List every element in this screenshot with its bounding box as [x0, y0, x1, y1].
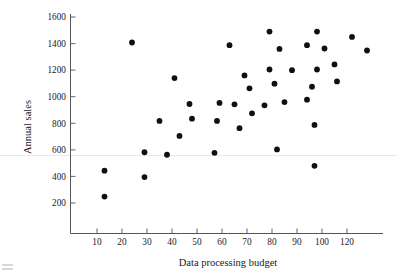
data-point: [289, 67, 295, 73]
data-point: [304, 97, 310, 103]
data-point: [102, 168, 108, 174]
data-point: [314, 67, 320, 73]
x-tick-label-90: 90: [292, 237, 302, 247]
x-tick-label-20: 20: [117, 237, 127, 247]
data-point: [322, 46, 328, 52]
y-tick-label-1600: 1600: [47, 12, 66, 22]
data-point: [187, 101, 193, 107]
data-point: [189, 116, 195, 122]
data-point: [237, 125, 243, 131]
x-tick-label-40: 40: [167, 237, 177, 247]
data-point: [312, 122, 318, 128]
data-point: [277, 46, 283, 52]
scan-artifact-mark-top: [2, 264, 13, 266]
y-axis-ticks: 200 400 600 800 1000 1200 1400 1600: [47, 12, 75, 208]
data-point: [212, 150, 218, 156]
data-point: [247, 85, 253, 91]
data-point: [309, 84, 315, 90]
x-tick-label-120: 120: [340, 237, 354, 247]
data-point: [217, 100, 223, 106]
data-point: [142, 149, 148, 155]
data-point: [274, 147, 280, 153]
data-point: [267, 67, 273, 73]
x-tick-label-50: 50: [192, 237, 202, 247]
y-tick-label-400: 400: [52, 172, 66, 182]
x-tick-label-100: 100: [315, 237, 329, 247]
scatter-chart: 200 400 600 800 1000 1200 1400 1600 10 2…: [0, 0, 397, 280]
data-point: [214, 118, 220, 124]
y-tick-label-200: 200: [52, 198, 66, 208]
data-point: [177, 133, 183, 139]
x-tick-label-70: 70: [242, 237, 252, 247]
x-tick-label-80: 80: [267, 237, 277, 247]
data-point: [334, 79, 340, 85]
data-points-layer: [102, 29, 370, 200]
data-point: [272, 81, 278, 87]
x-tick-label-10: 10: [92, 237, 102, 247]
data-point: [332, 62, 338, 68]
y-tick-label-800: 800: [52, 119, 66, 129]
data-point: [282, 99, 288, 105]
x-tick-label-60: 60: [217, 237, 227, 247]
y-tick-label-1400: 1400: [47, 39, 66, 49]
data-point: [314, 29, 320, 35]
data-point: [262, 102, 268, 108]
x-axis-title: Data processing budget: [179, 257, 278, 268]
y-tick-label-1000: 1000: [47, 92, 66, 102]
scan-artifact-mark-bottom: [2, 268, 13, 270]
data-point: [172, 75, 178, 81]
data-point: [232, 101, 238, 107]
data-point: [157, 118, 163, 124]
y-axis-title: Annual sales: [22, 100, 33, 154]
data-point: [242, 73, 248, 79]
data-point: [349, 34, 355, 40]
data-point: [304, 42, 310, 48]
y-tick-label-600: 600: [52, 145, 66, 155]
data-point: [102, 194, 108, 200]
data-point: [312, 163, 318, 169]
y-tick-label-1200: 1200: [47, 65, 66, 75]
x-axis-ticks: 10 20 30 40 50 60 70 80 90 100 120: [92, 229, 354, 248]
data-point: [164, 152, 170, 158]
data-point: [142, 174, 148, 180]
figure-container: 200 400 600 800 1000 1200 1400 1600 10 2…: [0, 0, 397, 280]
x-tick-label-30: 30: [142, 237, 152, 247]
data-point: [249, 110, 255, 116]
data-point: [364, 48, 370, 54]
data-point: [227, 42, 233, 48]
data-point: [267, 29, 273, 35]
data-point: [129, 40, 135, 46]
